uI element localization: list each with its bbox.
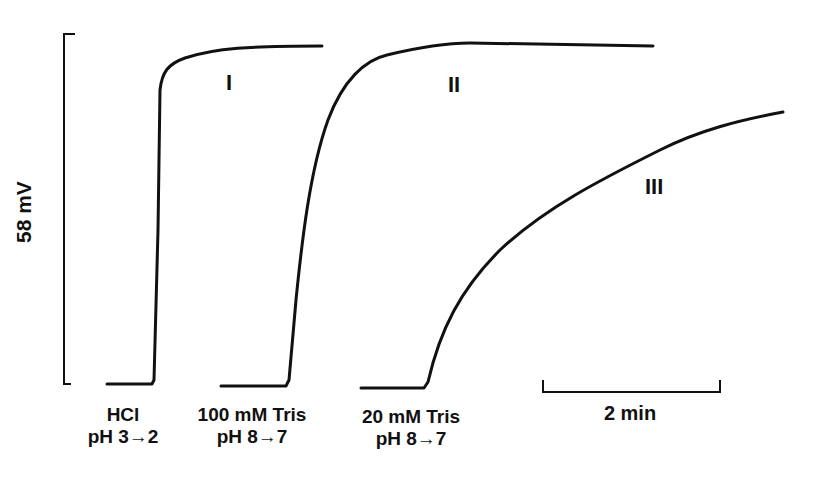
vertical-scale-bar [64, 34, 75, 384]
y-scale-label: 58 mV [12, 181, 36, 243]
condition-label-hcl: HCl pH 3→2 [78, 404, 168, 448]
condition-label-100mm-tris: 100 mM Tris pH 8→7 [184, 404, 320, 448]
trace-III [361, 112, 783, 388]
time-scale-bar [543, 380, 720, 392]
trace-II [221, 43, 653, 386]
time-scale-label: 2 min [585, 402, 675, 424]
condition-100mm-ph: pH 8→7 [184, 426, 320, 448]
condition-label-20mm-tris: 20 mM Tris pH 8→7 [348, 406, 474, 450]
curve-label-II: II [448, 72, 460, 98]
condition-100mm-reagent: 100 mM Tris [184, 404, 320, 426]
condition-20mm-ph: pH 8→7 [348, 428, 474, 450]
condition-hcl-ph: pH 3→2 [78, 426, 168, 448]
curve-label-III: III [645, 174, 663, 200]
curve-label-I: I [226, 70, 232, 96]
condition-20mm-reagent: 20 mM Tris [348, 406, 474, 428]
trace-I [107, 46, 322, 384]
condition-hcl-reagent: HCl [78, 404, 168, 426]
